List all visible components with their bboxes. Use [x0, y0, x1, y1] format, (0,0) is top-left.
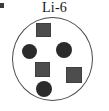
proton-right-square-icon: [66, 67, 82, 83]
nucleus-boundary-circle: [12, 17, 93, 101]
neutron-right-circle-icon: [56, 42, 72, 58]
neutron-bottom-circle-icon: [36, 81, 52, 97]
neutron-left-circle-icon: [22, 44, 37, 59]
proton-top-square-icon: [36, 23, 51, 37]
nuclide-figure: Li-6: [0, 0, 109, 111]
nuclide-label: Li-6: [0, 0, 109, 16]
proton-center-square-icon: [35, 62, 50, 77]
